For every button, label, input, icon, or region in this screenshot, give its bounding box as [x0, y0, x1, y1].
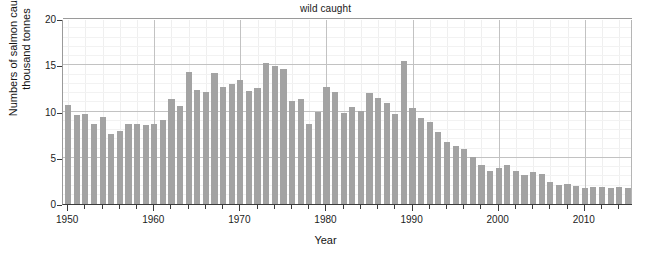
y-axis-tick-label: 15: [45, 61, 56, 71]
bar: [496, 168, 502, 204]
x-axis-tick-mark-major: [239, 205, 240, 211]
bar: [220, 87, 226, 204]
x-axis-tick-mark: [549, 205, 550, 209]
bar: [582, 188, 588, 204]
bar: [74, 115, 80, 204]
bar: [573, 186, 579, 204]
bar: [435, 132, 441, 204]
bar: [547, 182, 553, 204]
x-axis-tick-label: 1990: [400, 214, 422, 225]
x-axis-tick-label: 2000: [487, 214, 509, 225]
y-axis-label-line-1: Numbers of salmon caught/: [7, 0, 20, 129]
x-axis-tick-mark: [291, 205, 292, 209]
bar: [358, 111, 364, 204]
x-axis-tick-mark: [257, 205, 258, 209]
horizontal-gridline: [63, 18, 632, 19]
bar: [263, 63, 269, 204]
bar: [453, 146, 459, 204]
bar: [599, 187, 605, 204]
x-axis-tick-mark: [119, 205, 120, 209]
x-axis-tick-mark: [274, 205, 275, 209]
chart-figure: wild caught Numbers of salmon caught/ th…: [0, 0, 651, 258]
bar: [409, 108, 415, 204]
bar: [254, 88, 260, 204]
bar: [151, 124, 157, 204]
x-axis-tick-mark: [170, 205, 171, 209]
bar: [478, 165, 484, 204]
bar: [298, 99, 304, 204]
bar: [616, 187, 622, 204]
x-axis-tick-mark: [463, 205, 464, 209]
x-axis-tick-mark-major: [498, 205, 499, 211]
x-axis-tick-mark: [377, 205, 378, 209]
bar: [341, 113, 347, 204]
bar: [125, 124, 131, 204]
x-axis-tick-mark: [188, 205, 189, 209]
x-axis-tick-mark: [394, 205, 395, 209]
bar-series: [63, 20, 632, 204]
bar: [461, 149, 467, 204]
x-axis-tick-mark-major: [67, 205, 68, 211]
bar: [289, 101, 295, 204]
y-axis-tick-labels: 05101520: [30, 0, 56, 258]
x-axis-tick-label: 1950: [56, 214, 78, 225]
x-axis-label: Year: [0, 234, 651, 246]
bar: [315, 112, 321, 204]
bar: [272, 66, 278, 204]
x-axis-tick-mark: [567, 205, 568, 209]
bar: [564, 184, 570, 204]
bar: [203, 92, 209, 204]
bar: [82, 114, 88, 204]
x-axis-tick-label: 1960: [142, 214, 164, 225]
bar: [186, 72, 192, 204]
x-axis-tick-mark: [515, 205, 516, 209]
x-axis-tick-mark: [446, 205, 447, 209]
bar: [160, 120, 166, 204]
bar: [487, 171, 493, 204]
x-axis-tick-mark: [102, 205, 103, 209]
bar: [168, 99, 174, 204]
x-axis-ticks: [62, 205, 632, 213]
bar: [590, 187, 596, 204]
bar: [194, 90, 200, 204]
bar: [280, 69, 286, 204]
bar: [418, 118, 424, 204]
bar: [375, 98, 381, 204]
bar: [134, 124, 140, 204]
x-axis-tick-mark-major: [412, 205, 413, 211]
x-axis-tick-labels: 1950196019701980199020002010: [62, 214, 632, 228]
bar: [246, 91, 252, 204]
x-axis-tick-mark: [618, 205, 619, 209]
x-axis-tick-mark: [308, 205, 309, 209]
plot-right-spine: [631, 20, 632, 204]
x-axis-tick-mark: [343, 205, 344, 209]
x-axis-tick-mark: [84, 205, 85, 209]
bar: [401, 61, 407, 204]
bar: [349, 107, 355, 204]
bar: [530, 172, 536, 204]
x-axis-tick-label: 1980: [314, 214, 336, 225]
y-axis-tick-label: 20: [45, 15, 56, 25]
bar: [513, 171, 519, 204]
x-axis-tick-mark: [532, 205, 533, 209]
bar: [521, 175, 527, 204]
y-axis-tick-label: 0: [50, 200, 56, 210]
x-axis-tick-mark-major: [584, 205, 585, 211]
bar: [143, 125, 149, 204]
bar: [237, 80, 243, 204]
x-axis-tick-mark-major: [153, 205, 154, 211]
bar: [108, 134, 114, 204]
bar: [65, 105, 71, 204]
x-axis-tick-mark: [601, 205, 602, 209]
bar: [91, 124, 97, 204]
y-axis-tick-label: 10: [45, 108, 56, 118]
bar: [366, 93, 372, 204]
x-axis-tick-mark: [222, 205, 223, 209]
bar: [539, 174, 545, 204]
y-axis-tick-label: 5: [50, 154, 56, 164]
bar: [504, 165, 510, 204]
bar: [211, 73, 217, 204]
bar: [392, 114, 398, 204]
bar: [427, 122, 433, 204]
bar: [177, 106, 183, 204]
